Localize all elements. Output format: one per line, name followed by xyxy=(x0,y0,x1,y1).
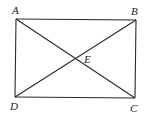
diagonal-bd xyxy=(15,20,136,97)
side-bc xyxy=(135,20,136,98)
side-da xyxy=(15,19,16,97)
side-ab xyxy=(16,19,136,20)
label-c: C xyxy=(130,102,138,114)
label-a: A xyxy=(11,4,19,16)
rectangle-diagram: A B C D E xyxy=(0,0,146,117)
label-e: E xyxy=(83,53,91,65)
label-d: D xyxy=(9,100,18,112)
label-b: B xyxy=(131,5,138,17)
side-cd xyxy=(15,97,135,98)
